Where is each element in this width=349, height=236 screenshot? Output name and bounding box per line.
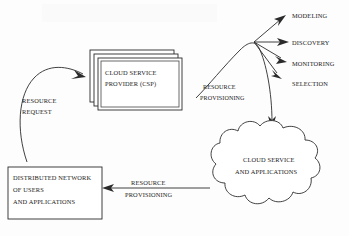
fan-arrowhead-modeling bbox=[274, 15, 286, 26]
fan-arrows-group: MODELING DISCOVERY MONITORING SELECTION bbox=[254, 12, 335, 87]
resource-provisioning-bottom-label-line2: PROVISIONING bbox=[125, 191, 172, 198]
cloud-provisioning-diagram: CLOUD SERVICE PROVIDER (CSP) RESOURCE RE… bbox=[0, 0, 349, 236]
network-box-label-line2: OF USERS bbox=[13, 186, 44, 193]
resource-provisioning-bottom-arrow: RESOURCE PROVISIONING bbox=[102, 179, 210, 198]
cloud-shape-group: CLOUD SERVICE AND APPLICATIONS bbox=[211, 121, 320, 204]
csp-box-stack: CLOUD SERVICE PROVIDER (CSP) bbox=[90, 50, 182, 110]
fan-arrow-monitoring bbox=[254, 42, 287, 64]
cloud-label-line1: CLOUD SERVICE bbox=[243, 156, 295, 163]
resource-request-label-line2: REQUEST bbox=[22, 108, 52, 115]
csp-label-line2: PROVIDER (CSP) bbox=[105, 80, 156, 88]
distributed-network-box: DISTRIBUTED NETWORK OF USERS AND APPLICA… bbox=[8, 167, 102, 219]
csp-label-line1: CLOUD SERVICE bbox=[105, 69, 157, 76]
fan-arrowhead-selection bbox=[271, 70, 282, 79]
resource-provisioning-top-label-line1: RESOURCE bbox=[203, 84, 236, 90]
fan-arrow-modeling bbox=[254, 15, 286, 42]
diagram-canvas: CLOUD SERVICE PROVIDER (CSP) RESOURCE RE… bbox=[0, 0, 349, 236]
fan-label-monitoring: MONITORING bbox=[292, 60, 335, 67]
scan-ghost-artifact bbox=[42, 4, 217, 22]
resource-provisioning-arc bbox=[196, 43, 272, 122]
resource-provisioning-top-label-line2: PROVISIONING bbox=[200, 95, 245, 101]
fan-label-modeling: MODELING bbox=[292, 12, 328, 19]
fan-label-discovery: DISCOVERY bbox=[292, 39, 330, 46]
cloud-label-line2: AND APPLICATIONS bbox=[235, 168, 298, 175]
resource-provisioning-bottom-label-line1: RESOURCE bbox=[131, 179, 166, 186]
fan-label-selection: SELECTION bbox=[292, 80, 328, 87]
network-box-label-line1: DISTRIBUTED NETWORK bbox=[13, 174, 92, 181]
fan-line-monitoring bbox=[254, 42, 281, 58]
resource-request-label-line1: RESOURCE bbox=[22, 97, 57, 104]
resource-request-arrow: RESOURCE REQUEST bbox=[20, 67, 86, 162]
fan-arrowhead-monitoring bbox=[275, 56, 287, 64]
network-box-label-line3: AND APPLICATIONS bbox=[13, 198, 76, 205]
fan-line-modeling bbox=[254, 19, 281, 42]
fan-arrow-selection bbox=[254, 42, 282, 79]
